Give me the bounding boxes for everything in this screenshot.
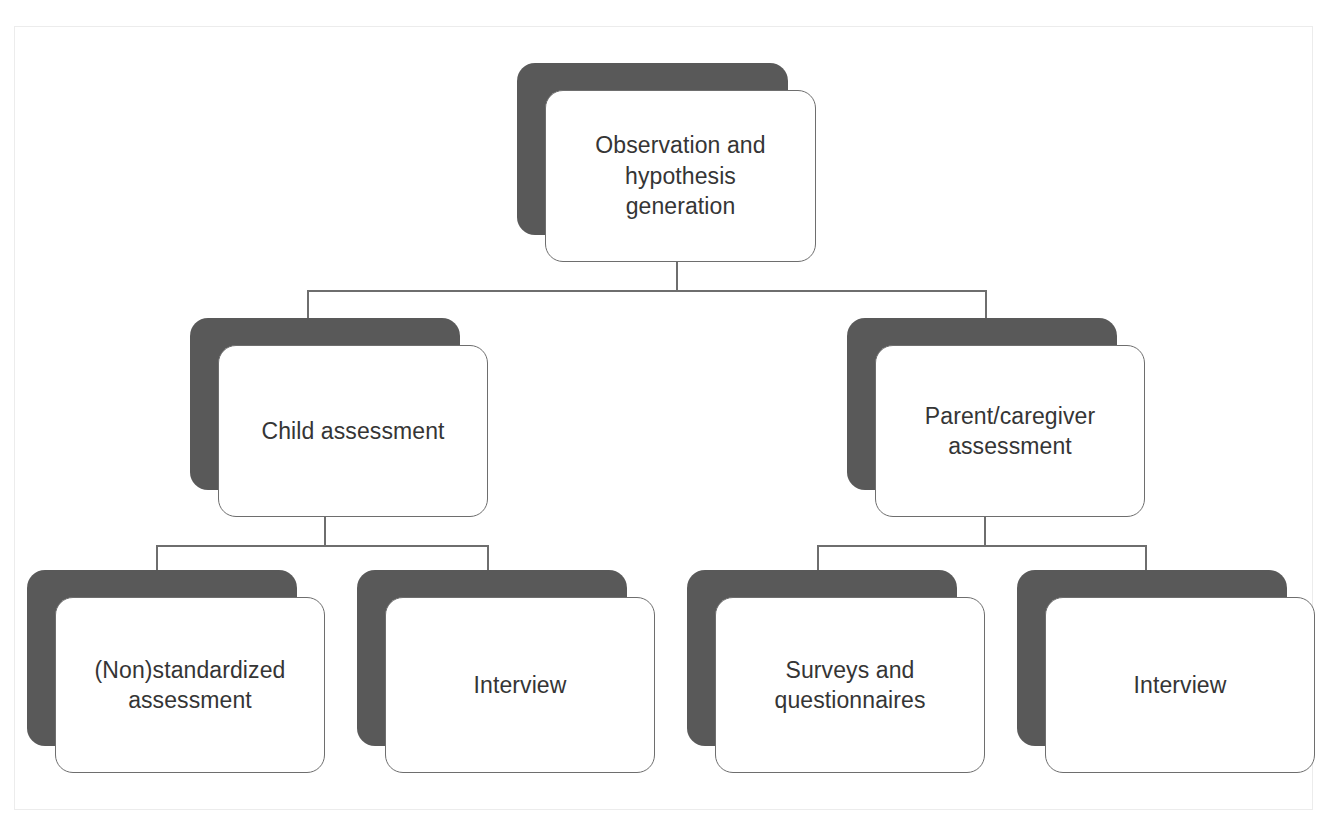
connector-child-stem <box>324 517 326 545</box>
node-label: Interview <box>1120 670 1241 700</box>
node-child-interview[interactable]: Interview <box>385 597 655 773</box>
node-card[interactable]: Interview <box>385 597 655 773</box>
node-card[interactable]: Surveys and questionnaires <box>715 597 985 773</box>
node-card[interactable]: Child assessment <box>218 345 488 517</box>
node-observation-and-hypothesis-generation[interactable]: Observation and hypothesis generation <box>545 90 816 262</box>
node-label: (Non)standardized assessment <box>81 655 300 716</box>
node-card[interactable]: Interview <box>1045 597 1315 773</box>
node-label: Interview <box>460 670 581 700</box>
diagram-canvas: Observation and hypothesis generation Ch… <box>0 0 1330 831</box>
node-card[interactable]: Observation and hypothesis generation <box>545 90 816 262</box>
node-nonstandardized-assessment[interactable]: (Non)standardized assessment <box>55 597 325 773</box>
node-label: Observation and hypothesis generation <box>581 130 779 221</box>
connector-parent-bar <box>817 545 1147 547</box>
connector-child-bar <box>156 545 489 547</box>
connector-parent-stem <box>984 517 986 545</box>
node-label: Surveys and questionnaires <box>760 655 939 716</box>
node-surveys-and-questionnaires[interactable]: Surveys and questionnaires <box>715 597 985 773</box>
node-card[interactable]: (Non)standardized assessment <box>55 597 325 773</box>
connector-root-stem <box>676 262 678 292</box>
node-card[interactable]: Parent/caregiver assessment <box>875 345 1145 517</box>
node-child-assessment[interactable]: Child assessment <box>218 345 488 517</box>
node-label: Child assessment <box>247 416 458 446</box>
node-parent-interview[interactable]: Interview <box>1045 597 1315 773</box>
node-label: Parent/caregiver assessment <box>911 401 1109 462</box>
node-parent-caregiver-assessment[interactable]: Parent/caregiver assessment <box>875 345 1145 517</box>
connector-level1-bar <box>307 290 987 292</box>
